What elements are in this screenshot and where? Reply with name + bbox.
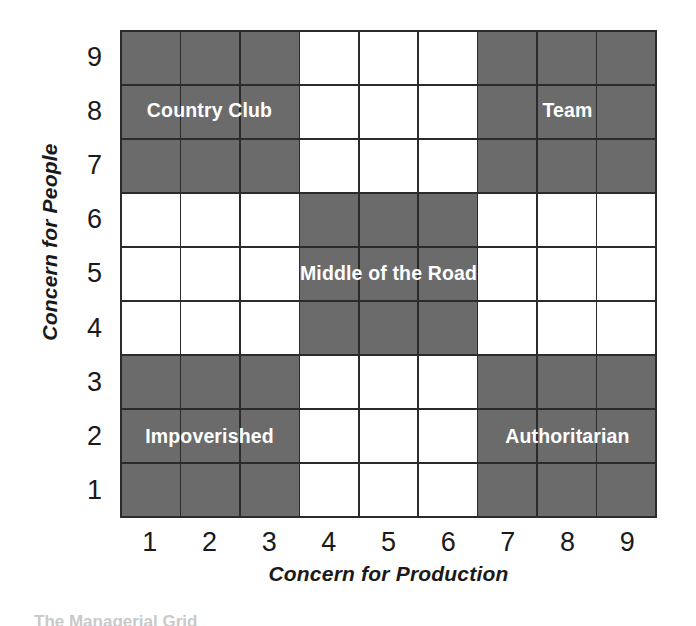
grid-cell-5-8 <box>360 86 418 138</box>
grid-cell-4-1 <box>300 464 358 516</box>
grid-cell-1-4 <box>122 302 180 354</box>
grid-cell-6-7 <box>419 140 477 192</box>
grid-cell-1-5 <box>122 248 180 300</box>
grid-cell-5-2 <box>360 410 418 462</box>
grid-cell-7-1 <box>478 464 536 516</box>
x-tick-label: 6 <box>418 522 478 562</box>
grid-cell-6-2 <box>419 410 477 462</box>
grid-cell-7-6 <box>478 194 536 246</box>
y-tick-label: 7 <box>62 138 110 192</box>
grid-cell-4-6 <box>300 194 358 246</box>
grid-cell-7-8 <box>478 86 536 138</box>
y-axis-title: Concern for People <box>38 102 62 382</box>
clipped-caption: The Managerial Grid <box>34 612 197 626</box>
grid-cell-8-8 <box>538 86 596 138</box>
grid-cell-1-2 <box>122 410 180 462</box>
y-tick-label: 3 <box>62 355 110 409</box>
grid-cell-3-3 <box>241 356 299 408</box>
grid-cell-5-3 <box>360 356 418 408</box>
y-tick-label: 9 <box>62 30 110 84</box>
y-tick-label: 8 <box>62 84 110 138</box>
x-tick-label: 1 <box>120 522 180 562</box>
grid-cell-3-9 <box>241 32 299 84</box>
grid-cell-5-4 <box>360 302 418 354</box>
x-tick-label: 9 <box>597 522 657 562</box>
grid-cell-8-5 <box>538 248 596 300</box>
grid-cell-7-5 <box>478 248 536 300</box>
managerial-grid-figure: Concern for People 9 8 7 6 5 4 3 2 1 Cou… <box>0 0 696 626</box>
x-tick-label: 5 <box>359 522 419 562</box>
grid-cell-9-6 <box>597 194 655 246</box>
grid-cell-7-3 <box>478 356 536 408</box>
grid-cell-2-1 <box>181 464 239 516</box>
grid-cell-6-8 <box>419 86 477 138</box>
grid-cell-2-8 <box>181 86 239 138</box>
y-tick-label: 6 <box>62 193 110 247</box>
grid-cell-9-3 <box>597 356 655 408</box>
grid-cell-2-4 <box>181 302 239 354</box>
grid-cell-4-4 <box>300 302 358 354</box>
grid-cell-8-7 <box>538 140 596 192</box>
grid-cell-5-9 <box>360 32 418 84</box>
grid-cell-2-3 <box>181 356 239 408</box>
grid-cell-9-4 <box>597 302 655 354</box>
grid-cell-6-4 <box>419 302 477 354</box>
grid-cell-8-6 <box>538 194 596 246</box>
grid-cell-2-6 <box>181 194 239 246</box>
grid-cell-8-3 <box>538 356 596 408</box>
grid-cell-2-5 <box>181 248 239 300</box>
grid-cell-9-1 <box>597 464 655 516</box>
grid-cell-6-3 <box>419 356 477 408</box>
grid-cell-3-7 <box>241 140 299 192</box>
grid-cell-9-9 <box>597 32 655 84</box>
grid-cell-4-9 <box>300 32 358 84</box>
grid-cell-4-7 <box>300 140 358 192</box>
grid-cell-4-3 <box>300 356 358 408</box>
grid-cell-3-5 <box>241 248 299 300</box>
grid-cell-8-9 <box>538 32 596 84</box>
grid-matrix <box>120 30 657 518</box>
grid-cell-1-1 <box>122 464 180 516</box>
grid-cell-9-5 <box>597 248 655 300</box>
grid-cell-5-7 <box>360 140 418 192</box>
grid-cell-3-8 <box>241 86 299 138</box>
grid-cell-4-5 <box>300 248 358 300</box>
grid-cell-1-9 <box>122 32 180 84</box>
grid-cell-8-4 <box>538 302 596 354</box>
x-tick-label: 3 <box>239 522 299 562</box>
grid-cell-4-8 <box>300 86 358 138</box>
grid-cell-2-2 <box>181 410 239 462</box>
grid-cell-7-2 <box>478 410 536 462</box>
x-tick-label: 4 <box>299 522 359 562</box>
grid-cell-3-6 <box>241 194 299 246</box>
x-tick-label: 8 <box>538 522 598 562</box>
x-axis-tick-labels: 1 2 3 4 5 6 7 8 9 <box>120 522 657 562</box>
grid-cell-9-7 <box>597 140 655 192</box>
grid-cell-7-4 <box>478 302 536 354</box>
grid-cell-1-7 <box>122 140 180 192</box>
grid-cell-9-8 <box>597 86 655 138</box>
x-tick-label: 2 <box>180 522 240 562</box>
grid-cell-1-6 <box>122 194 180 246</box>
grid-cell-3-1 <box>241 464 299 516</box>
grid-cell-1-8 <box>122 86 180 138</box>
grid-cell-9-2 <box>597 410 655 462</box>
grid-cell-4-2 <box>300 410 358 462</box>
y-tick-label: 4 <box>62 301 110 355</box>
x-tick-label: 7 <box>478 522 538 562</box>
x-axis-title: Concern for Production <box>120 562 657 586</box>
y-tick-label: 2 <box>62 410 110 464</box>
grid-cell-8-1 <box>538 464 596 516</box>
grid-cell-6-1 <box>419 464 477 516</box>
grid-cell-3-4 <box>241 302 299 354</box>
grid-cell-3-2 <box>241 410 299 462</box>
grid-cell-6-5 <box>419 248 477 300</box>
grid-cell-6-6 <box>419 194 477 246</box>
grid-cell-5-1 <box>360 464 418 516</box>
y-axis-tick-labels: 9 8 7 6 5 4 3 2 1 <box>62 30 110 518</box>
grid-cell-2-9 <box>181 32 239 84</box>
grid-cell-7-7 <box>478 140 536 192</box>
y-tick-label: 1 <box>62 464 110 518</box>
y-tick-label: 5 <box>62 247 110 301</box>
grid-cell-7-9 <box>478 32 536 84</box>
